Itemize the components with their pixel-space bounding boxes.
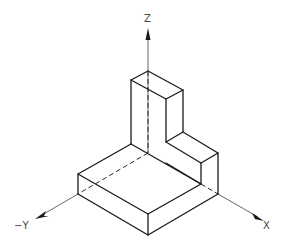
z-axis-arrow-icon — [146, 28, 151, 40]
x-axis-line — [218, 194, 258, 217]
z-axis-label: Z — [144, 13, 151, 24]
x-axis-label: X — [263, 220, 270, 231]
step-top-face — [166, 132, 218, 163]
neg-y-axis-line — [42, 194, 78, 215]
hidden-edge-left — [78, 153, 148, 194]
neg-y-axis-label: −Y — [14, 220, 29, 231]
hidden-edge-right — [201, 184, 218, 194]
base-top-face — [78, 144, 201, 214]
x-axis-arrow-icon — [250, 213, 264, 221]
base-diagonal-edge — [131, 144, 201, 184]
axes — [35, 28, 264, 221]
upright-top-face — [131, 71, 183, 99]
isometric-diagram: Z X −Y — [0, 0, 287, 244]
